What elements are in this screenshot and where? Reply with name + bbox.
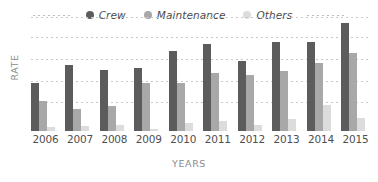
x-tick-2007: 2007 [65, 133, 94, 149]
bar-group-2009 [134, 14, 163, 131]
x-tick-2008: 2008 [100, 133, 129, 149]
bar-chart: Crew Maintenance Others 2006200720082009… [0, 0, 378, 182]
plot-area [31, 14, 370, 131]
bar-maintenance-2011[interactable] [211, 73, 219, 132]
bar-others-2015[interactable] [357, 118, 365, 131]
x-axis-title: YEARS [0, 158, 378, 169]
bar-maintenance-2013[interactable] [280, 71, 288, 131]
bar-group-2013 [272, 14, 301, 131]
x-tick-2013: 2013 [272, 133, 301, 149]
bar-maintenance-2009[interactable] [142, 83, 150, 131]
bar-groups [31, 14, 370, 131]
bar-others-2008[interactable] [116, 125, 124, 132]
bar-maintenance-2008[interactable] [108, 106, 116, 131]
bar-crew-2009[interactable] [134, 68, 142, 131]
bar-group-2008 [100, 14, 129, 131]
bar-maintenance-2007[interactable] [73, 109, 81, 131]
x-axis-tick-labels: 2006200720082009201020112012201320142015 [31, 133, 370, 149]
bar-others-2009[interactable] [150, 129, 158, 131]
x-tick-2015: 2015 [341, 133, 370, 149]
bar-others-2011[interactable] [219, 121, 227, 131]
x-tick-2006: 2006 [31, 133, 60, 149]
bar-group-2012 [238, 14, 267, 131]
bar-maintenance-2010[interactable] [177, 83, 185, 131]
x-tick-2010: 2010 [169, 133, 198, 149]
bar-crew-2012[interactable] [238, 61, 246, 131]
bar-maintenance-2015[interactable] [349, 53, 357, 131]
bar-group-2015 [341, 14, 370, 131]
x-tick-2014: 2014 [307, 133, 336, 149]
y-axis-title: RATE [9, 48, 20, 88]
bar-others-2006[interactable] [47, 127, 55, 131]
bar-group-2007 [65, 14, 94, 131]
bar-others-2010[interactable] [185, 123, 193, 131]
bar-crew-2015[interactable] [341, 23, 349, 131]
x-tick-2009: 2009 [134, 133, 163, 149]
bar-others-2013[interactable] [288, 119, 296, 131]
bar-group-2011 [203, 14, 232, 131]
bar-maintenance-2014[interactable] [315, 63, 323, 131]
bar-crew-2011[interactable] [203, 44, 211, 131]
bar-crew-2007[interactable] [65, 65, 73, 131]
bar-maintenance-2006[interactable] [39, 101, 47, 131]
bar-crew-2008[interactable] [100, 70, 108, 131]
bar-others-2014[interactable] [323, 105, 331, 131]
bar-maintenance-2012[interactable] [246, 75, 254, 131]
x-tick-2011: 2011 [203, 133, 232, 149]
bar-crew-2013[interactable] [272, 42, 280, 131]
bar-crew-2010[interactable] [169, 51, 177, 131]
bar-group-2010 [169, 14, 198, 131]
bar-others-2007[interactable] [81, 126, 89, 131]
bar-group-2006 [31, 14, 60, 131]
bar-group-2014 [307, 14, 336, 131]
bar-crew-2006[interactable] [31, 83, 39, 131]
x-tick-2012: 2012 [238, 133, 267, 149]
bar-others-2012[interactable] [254, 125, 262, 132]
bar-crew-2014[interactable] [307, 42, 315, 131]
